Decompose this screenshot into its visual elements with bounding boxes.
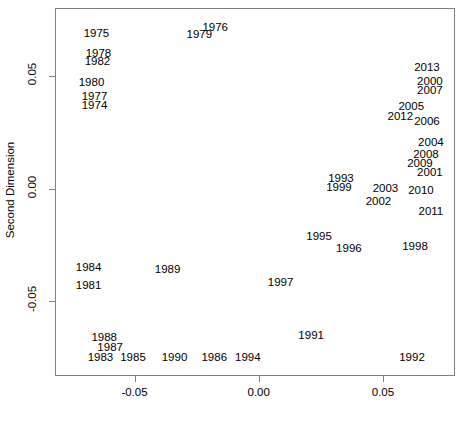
data-point-label: 2006 xyxy=(414,117,440,129)
data-point-label: 1992 xyxy=(399,352,425,364)
data-point-label: 2013 xyxy=(414,63,440,75)
y-axis-tick xyxy=(49,189,55,190)
data-point-label: 1975 xyxy=(84,28,110,40)
x-axis-tick xyxy=(135,376,136,382)
data-point-label: 2007 xyxy=(417,86,443,98)
data-point-label: 1986 xyxy=(201,352,227,364)
data-point-label: 1998 xyxy=(402,241,428,253)
data-point-label: 2012 xyxy=(388,112,414,124)
data-point-label: 1985 xyxy=(120,352,146,364)
data-point-label: 1989 xyxy=(155,264,181,276)
data-point-label: 2010 xyxy=(408,185,434,197)
y-axis-tick xyxy=(49,76,55,77)
data-point-label: 2003 xyxy=(373,183,399,195)
data-point-label: 1995 xyxy=(306,231,332,243)
data-point-label: 1984 xyxy=(76,262,102,274)
data-point-label: 1994 xyxy=(235,352,261,364)
data-point-label: 2011 xyxy=(419,206,444,218)
y-axis-tick-label: 0.05 xyxy=(26,59,38,89)
x-axis-tick-label: -0.05 xyxy=(121,386,147,398)
data-point-label: 1999 xyxy=(326,182,352,194)
data-point-label: 1990 xyxy=(162,352,188,364)
y-axis-tick xyxy=(49,301,55,302)
data-point-label: 2002 xyxy=(366,196,392,208)
data-point-label: 2004 xyxy=(418,137,444,149)
scatter-plot-figure: -0.050.000.050.050.00-0.05Second Dimensi… xyxy=(0,0,462,423)
data-point-label: 1974 xyxy=(82,101,108,113)
y-axis-tick-label: -0.05 xyxy=(26,284,38,314)
y-axis-tick-label: 0.00 xyxy=(26,172,38,202)
data-point-label: 1979 xyxy=(187,29,213,41)
data-point-label: 1997 xyxy=(268,277,294,289)
data-point-label: 2001 xyxy=(417,168,443,180)
x-axis-tick-label: 0.00 xyxy=(248,386,270,398)
y-axis-title: Second Dimension xyxy=(4,140,16,240)
data-point-label: 1982 xyxy=(85,56,111,68)
data-point-label: 1996 xyxy=(336,243,362,255)
x-axis-tick-label: 0.05 xyxy=(372,386,394,398)
x-axis-tick xyxy=(259,376,260,382)
data-point-label: 1983 xyxy=(88,352,114,364)
x-axis-tick xyxy=(383,376,384,382)
data-point-label: 1991 xyxy=(298,330,324,342)
data-point-label: 1980 xyxy=(79,77,105,89)
data-point-label: 1981 xyxy=(76,280,102,292)
